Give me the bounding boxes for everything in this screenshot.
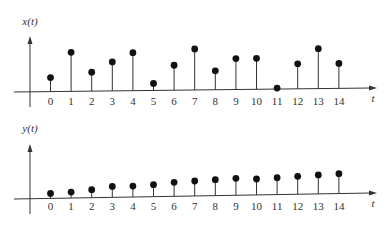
data-point — [68, 189, 75, 196]
t-axis — [14, 88, 371, 92]
data-point — [336, 170, 343, 177]
t-tick-label: 6 — [171, 200, 177, 212]
data-point — [294, 173, 301, 180]
t-tick-label: 1 — [68, 200, 74, 212]
t-tick-label: 0 — [48, 95, 54, 107]
stem-plots: x(t)t01234567891011121314y(t)t0123456789… — [0, 0, 389, 229]
t-tick-label: 5 — [151, 200, 157, 212]
t-axis-arrow-icon — [369, 191, 377, 196]
t-axis-label: t — [371, 92, 375, 104]
data-point — [294, 60, 301, 67]
y-axis-arrow-icon — [28, 144, 33, 152]
t-tick-label: 4 — [130, 95, 136, 107]
data-point — [88, 186, 95, 193]
t-tick-label: 2 — [89, 200, 95, 212]
figure: x(t)t01234567891011121314y(t)t0123456789… — [0, 0, 389, 229]
bottom-chart: y(t)t01234567891011121314 — [14, 122, 377, 214]
t-tick-label: 2 — [89, 95, 95, 107]
data-point — [68, 49, 75, 56]
t-tick-label: 7 — [192, 200, 198, 212]
data-point — [47, 190, 54, 197]
data-point — [191, 178, 198, 185]
t-tick-label: 10 — [251, 200, 263, 212]
t-tick-label: 5 — [151, 95, 157, 107]
data-point — [233, 55, 240, 62]
t-tick-label: 7 — [192, 95, 198, 107]
data-point — [88, 69, 95, 76]
t-tick-label: 9 — [233, 200, 239, 212]
t-axis — [14, 193, 371, 199]
data-point — [253, 176, 260, 183]
t-tick-label: 10 — [251, 95, 263, 107]
data-point — [150, 80, 157, 87]
t-tick-label: 11 — [272, 95, 283, 107]
data-point — [212, 176, 219, 183]
y-axis-arrow-icon — [28, 36, 33, 44]
y-axis-label: y(t) — [21, 122, 38, 135]
data-point — [130, 49, 137, 56]
t-tick-label: 14 — [333, 200, 345, 212]
t-tick-label: 4 — [130, 200, 136, 212]
t-tick-label: 9 — [233, 95, 239, 107]
t-tick-label: 12 — [292, 200, 303, 212]
data-point — [171, 179, 178, 186]
t-tick-label: 3 — [110, 95, 116, 107]
t-tick-label: 3 — [110, 200, 116, 212]
data-point — [315, 45, 322, 52]
data-point — [212, 67, 219, 74]
t-tick-label: 1 — [68, 95, 74, 107]
data-point — [274, 85, 281, 92]
data-point — [150, 181, 157, 188]
data-point — [274, 174, 281, 181]
data-point — [171, 62, 178, 69]
t-tick-label: 8 — [213, 200, 219, 212]
data-point — [315, 172, 322, 179]
t-tick-label: 14 — [333, 95, 345, 107]
data-point — [253, 55, 260, 62]
y-axis-label: x(t) — [21, 15, 38, 28]
data-point — [336, 60, 343, 67]
t-axis-label: t — [371, 197, 375, 209]
data-point — [233, 175, 240, 182]
data-point — [109, 183, 116, 190]
t-tick-label: 8 — [213, 95, 219, 107]
data-point — [191, 46, 198, 53]
t-tick-label: 11 — [272, 200, 283, 212]
t-tick-label: 6 — [171, 95, 177, 107]
t-tick-label: 0 — [48, 200, 54, 212]
t-tick-label: 12 — [292, 95, 303, 107]
t-tick-label: 13 — [313, 95, 325, 107]
data-point — [109, 59, 116, 66]
data-point — [130, 183, 137, 190]
t-tick-label: 13 — [313, 200, 325, 212]
data-point — [47, 74, 54, 81]
t-axis-arrow-icon — [369, 86, 377, 91]
top-chart: x(t)t01234567891011121314 — [14, 15, 377, 107]
